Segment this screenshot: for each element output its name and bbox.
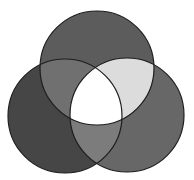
venn-diagram — [0, 0, 194, 180]
